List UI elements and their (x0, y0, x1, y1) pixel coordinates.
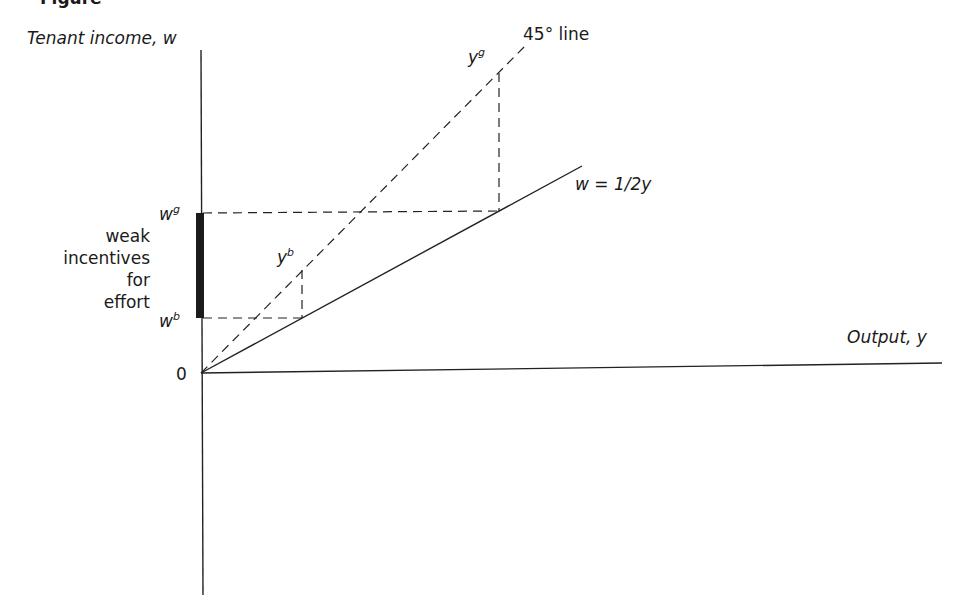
yb-label: yb (277, 247, 294, 266)
caption-line: for (60, 269, 150, 291)
yg-label: yg (468, 47, 485, 66)
x-axis (201, 363, 942, 373)
caption-line: effort (60, 291, 150, 313)
line-45-label: 45° line (523, 26, 589, 43)
caption-line: incentives (60, 247, 150, 269)
weak-incentives-caption: weak incentives for effort (60, 225, 150, 313)
origin-label: 0 (176, 366, 187, 383)
x-axis-label: Output, y (847, 329, 927, 346)
y-axis (201, 50, 203, 595)
y-axis-label: Tenant income, w (27, 30, 177, 47)
caption-line: weak (60, 225, 150, 247)
wb-label: wb (159, 311, 180, 330)
wg-label: wg (159, 204, 180, 223)
line-45-degree (201, 44, 527, 373)
share-line (201, 166, 582, 373)
weak-incentives-bar (196, 213, 204, 318)
share-line-label: w = 1/2y (575, 176, 651, 193)
wg-horizontal-dash (203, 211, 499, 213)
